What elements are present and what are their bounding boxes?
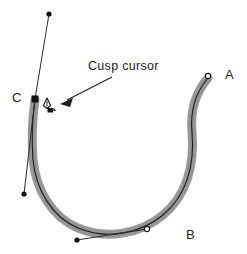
curve-label-b: B bbox=[186, 228, 195, 241]
direction-handle-c-up[interactable] bbox=[35, 14, 49, 99]
path-outer-stroke bbox=[32, 78, 208, 234]
anchor-point-b[interactable] bbox=[144, 226, 149, 231]
curve-label-a: A bbox=[225, 68, 234, 81]
handle-endpoint-dot-c-down[interactable] bbox=[21, 191, 26, 196]
bezier-path-illustration bbox=[0, 0, 247, 254]
annotation-arrow bbox=[60, 77, 112, 107]
anchor-point-a[interactable] bbox=[205, 73, 210, 78]
anchor-point-c-cusp[interactable] bbox=[32, 96, 39, 103]
handle-endpoint-dot-c-up[interactable] bbox=[46, 11, 51, 16]
curve-label-c: C bbox=[12, 91, 22, 104]
cusp-pen-cursor-icon bbox=[43, 98, 56, 113]
cusp-cursor-annotation-label: Cusp cursor bbox=[88, 60, 159, 73]
figure-canvas: A B C Cusp cursor bbox=[0, 0, 247, 254]
handle-endpoint-dot-b-left[interactable] bbox=[74, 237, 79, 242]
